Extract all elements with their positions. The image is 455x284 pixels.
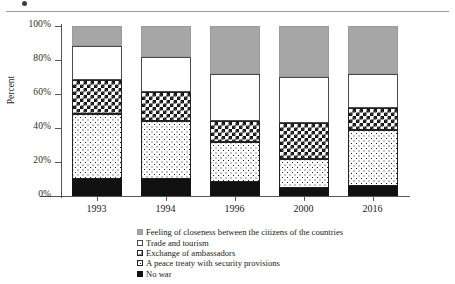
y-tick-label: 60% — [33, 87, 51, 97]
bar-segment[interactable] — [72, 26, 122, 46]
bar-segment[interactable] — [348, 186, 398, 196]
bar-segment[interactable] — [210, 142, 260, 183]
bar-segment[interactable] — [279, 77, 329, 123]
bar-segment[interactable] — [348, 26, 398, 74]
x-tick-label-2000: 2000 — [274, 203, 334, 214]
legend-item[interactable]: A peace treaty with security provisions — [137, 258, 343, 268]
x-tick-mark — [304, 196, 305, 201]
bar-segment[interactable] — [141, 26, 191, 57]
bar-segment[interactable] — [141, 121, 191, 179]
x-tick-mark — [97, 196, 98, 201]
y-tick-mark — [55, 162, 61, 163]
bar-column-2000[interactable] — [279, 26, 329, 196]
bar-segment[interactable] — [141, 179, 191, 196]
plot-area — [62, 26, 407, 196]
legend-label: A peace treaty with security provisions — [146, 258, 280, 268]
legend-item[interactable]: Trade and tourism — [137, 237, 343, 247]
y-tick: 60% — [55, 94, 61, 95]
y-tick-mark — [55, 94, 61, 95]
legend-label: Exchange of ambassadors — [146, 248, 235, 258]
bar-segment[interactable] — [279, 26, 329, 77]
header-divider — [6, 11, 449, 12]
bar-segment[interactable] — [348, 74, 398, 108]
x-axis-line — [40, 196, 410, 197]
bar-segment[interactable] — [210, 182, 260, 196]
legend-item[interactable]: Feeling of closeness between the citizen… — [137, 227, 343, 237]
chart-legend: Feeling of closeness between the citizen… — [137, 227, 343, 279]
y-axis-title: Percent — [6, 76, 16, 105]
x-tick-label-1996: 1996 — [205, 203, 265, 214]
page-bullet-mark — [22, 1, 27, 6]
legend-swatch-icon — [137, 260, 143, 266]
y-tick-label: 100% — [28, 19, 51, 29]
legend-label: No war — [146, 269, 172, 279]
bar-segment[interactable] — [72, 46, 122, 80]
bar-segment[interactable] — [210, 26, 260, 74]
legend-swatch-icon — [137, 240, 143, 246]
legend-swatch-icon — [137, 250, 143, 256]
y-tick-label: 40% — [33, 121, 51, 131]
bar-segment[interactable] — [279, 159, 329, 188]
x-tick-mark — [166, 196, 167, 201]
y-tick: 100% — [55, 26, 61, 27]
figure-canvas: Percent 0%20%40%60%80%100% 1993199419962… — [0, 0, 455, 284]
y-tick-mark — [55, 60, 61, 61]
y-tick-mark — [55, 196, 61, 197]
bar-segment[interactable] — [279, 188, 329, 197]
bar-column-1994[interactable] — [141, 26, 191, 196]
legend-label: Feeling of closeness between the citizen… — [146, 227, 343, 237]
x-tick-label-1994: 1994 — [136, 203, 196, 214]
bar-segment[interactable] — [72, 179, 122, 196]
y-tick: 20% — [55, 162, 61, 163]
y-tick-label: 20% — [33, 155, 51, 165]
bar-segment[interactable] — [279, 123, 329, 159]
x-tick-mark — [373, 196, 374, 201]
y-tick: 40% — [55, 128, 61, 129]
x-tick-label-2016: 2016 — [343, 203, 403, 214]
y-tick-mark — [55, 26, 61, 27]
legend-item[interactable]: No war — [137, 269, 343, 279]
bar-segment[interactable] — [348, 130, 398, 186]
legend-item[interactable]: Exchange of ambassadors — [137, 248, 343, 258]
x-tick-mark — [235, 196, 236, 201]
bar-segment[interactable] — [141, 92, 191, 121]
bar-segment[interactable] — [141, 57, 191, 93]
x-tick-label-1993: 1993 — [67, 203, 127, 214]
legend-swatch-icon — [137, 229, 143, 235]
bar-column-2016[interactable] — [348, 26, 398, 196]
y-tick: 80% — [55, 60, 61, 61]
legend-swatch-icon — [137, 271, 143, 277]
legend-label: Trade and tourism — [146, 238, 209, 248]
y-tick-label: 0% — [38, 189, 51, 199]
bar-segment[interactable] — [72, 80, 122, 114]
bar-column-1996[interactable] — [210, 26, 260, 196]
bar-segment[interactable] — [210, 121, 260, 141]
y-tick: 0% — [55, 196, 61, 197]
bar-segment[interactable] — [348, 108, 398, 130]
bar-segment[interactable] — [210, 74, 260, 122]
y-tick-label: 80% — [33, 53, 51, 63]
bar-column-1993[interactable] — [72, 26, 122, 196]
y-tick-mark — [55, 128, 61, 129]
bar-segment[interactable] — [72, 114, 122, 179]
